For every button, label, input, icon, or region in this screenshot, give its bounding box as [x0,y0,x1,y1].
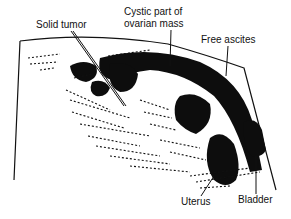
label-solid-tumor: Solid tumor [36,19,87,30]
dark-band [175,94,211,134]
label-free-ascites: Free ascites [201,34,255,45]
ultrasound-diagram: Solid tumor Cystic part of ovarian mass … [0,0,291,219]
diagram-canvas: Solid tumor Cystic part of ovarian mass … [0,0,291,219]
label-uterus: Uterus [181,196,210,207]
leader-free-ascites [226,46,228,76]
label-bladder: Bladder [238,194,273,205]
dark-blob-1 [70,62,97,82]
uterus-mass [207,134,239,185]
label-cystic-part-line2: ovarian mass [124,18,183,29]
label-cystic-part-line1: Cystic part of [124,6,183,17]
dark-blob-2 [91,81,110,96]
leader-uterus [201,176,214,196]
